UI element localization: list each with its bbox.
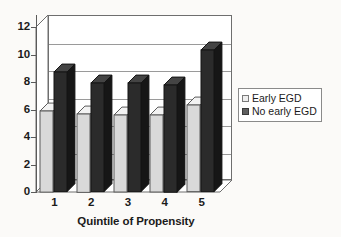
y-tick-mark — [31, 137, 37, 138]
y-tick-mark — [31, 165, 37, 166]
x-tick-label: 5 — [187, 197, 217, 209]
bar-no-early-egd-q5 — [201, 50, 214, 192]
legend-item-no-early-egd: No early EGD — [242, 105, 317, 118]
legend-swatch-icon — [242, 95, 249, 102]
bar-early-egd-q4 — [150, 115, 163, 192]
legend-item-early-egd: Early EGD — [242, 92, 317, 105]
chart-legend: Early EGD No early EGD — [238, 88, 322, 122]
bar-early-egd-q2 — [77, 114, 90, 192]
legend-label: No early EGD — [252, 105, 317, 118]
y-tick-label: 4 — [4, 131, 30, 143]
y-tick-label: 0 — [4, 186, 30, 198]
x-tick-label: 2 — [76, 197, 106, 209]
y-tick-label: 12 — [4, 21, 30, 33]
bar-early-egd-q5 — [187, 105, 200, 192]
x-axis-title: Quintile of Propensity — [36, 215, 236, 227]
x-tick-label: 4 — [150, 197, 180, 209]
y-tick-label: 2 — [4, 159, 30, 171]
legend-swatch-icon — [242, 108, 249, 115]
bar-no-early-egd-q1 — [54, 72, 67, 192]
y-tick-mark — [31, 192, 37, 193]
y-tick-mark — [31, 110, 37, 111]
x-tick-label: 1 — [39, 197, 69, 209]
y-tick-label: 10 — [4, 49, 30, 61]
y-tick-mark — [31, 55, 37, 56]
bar-3d-shape — [201, 38, 228, 194]
legend-label: Early EGD — [252, 92, 302, 105]
bar-early-egd-q3 — [114, 115, 127, 192]
x-tick-label: 3 — [113, 197, 143, 209]
bar-chart: 024681012 12345 Quintile of Propensity E… — [0, 0, 341, 237]
bar-no-early-egd-q2 — [91, 83, 104, 192]
y-tick-label: 8 — [4, 76, 30, 88]
bar-no-early-egd-q3 — [128, 83, 141, 192]
y-tick-label: 6 — [4, 104, 30, 116]
bar-early-egd-q1 — [40, 111, 53, 192]
y-tick-mark — [31, 82, 37, 83]
bar-no-early-egd-q4 — [164, 85, 177, 192]
y-tick-mark — [31, 27, 37, 28]
